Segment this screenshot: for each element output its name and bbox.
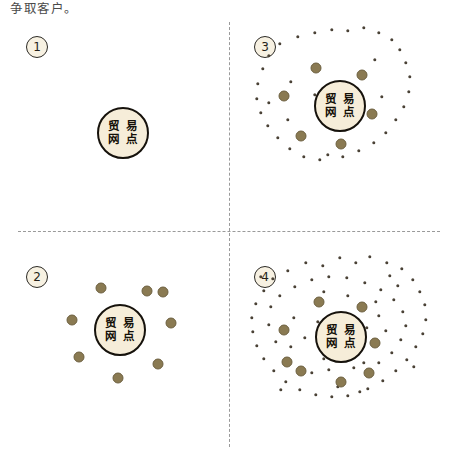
small-dot	[362, 361, 365, 364]
small-dot	[255, 344, 258, 347]
small-dot	[262, 357, 265, 360]
medium-dot	[314, 297, 325, 308]
small-dot	[327, 275, 330, 278]
small-dot	[377, 314, 380, 317]
small-dot	[384, 329, 387, 332]
small-dot	[352, 366, 355, 369]
small-dot	[381, 379, 384, 382]
small-dot	[269, 305, 272, 308]
small-dot	[330, 28, 333, 31]
diagram-canvas: 争取客户。 1 贸 易 网 点 2 贸 易 网 点 3 贸 易 网 点 4 贸 …	[0, 0, 456, 461]
small-dot	[411, 278, 414, 281]
small-dot	[384, 131, 387, 134]
panel-number-badge-4: 4	[254, 266, 276, 288]
small-dot	[421, 332, 424, 335]
small-dot	[267, 101, 270, 104]
small-dot	[346, 394, 349, 397]
medium-dot	[370, 338, 381, 349]
medium-dot	[282, 357, 293, 368]
small-dot	[326, 153, 329, 156]
panel-2: 2 贸 易 网 点	[0, 230, 228, 461]
small-dot	[354, 261, 357, 264]
small-dot	[366, 387, 369, 390]
small-dot	[412, 365, 415, 368]
small-dot	[374, 300, 377, 303]
panel-4: 4 贸 易 网 点	[228, 230, 456, 461]
medium-dot	[279, 91, 290, 102]
panel-3: 3 贸 易 网 点	[228, 0, 456, 231]
small-dot	[303, 336, 306, 339]
medium-dot	[336, 377, 347, 388]
small-dot	[398, 48, 401, 51]
small-dot	[250, 316, 253, 319]
medium-dot	[153, 359, 164, 370]
small-dot	[336, 385, 339, 388]
medium-dot	[96, 283, 107, 294]
small-dot	[322, 290, 325, 293]
trade-node-2: 贸 易 网 点	[94, 304, 146, 356]
panel-number-badge-2: 2	[26, 266, 48, 288]
small-dot	[256, 82, 259, 85]
medium-dot	[296, 131, 307, 142]
small-dot	[385, 261, 388, 264]
small-dot	[298, 388, 301, 391]
small-dot	[321, 264, 324, 267]
small-dot	[390, 351, 393, 354]
medium-dot	[113, 373, 124, 384]
small-dot	[310, 278, 313, 281]
small-dot	[363, 281, 366, 284]
small-dot	[379, 288, 382, 291]
small-dot	[310, 371, 313, 374]
small-dot	[396, 284, 399, 287]
small-dot	[424, 318, 427, 321]
small-dot	[286, 269, 289, 272]
small-dot	[377, 361, 380, 364]
node-label-line2: 网 点	[326, 337, 356, 350]
small-dot	[302, 155, 305, 158]
small-dot	[267, 323, 270, 326]
medium-dot	[279, 325, 290, 336]
small-dot	[251, 330, 254, 333]
small-dot	[284, 380, 287, 383]
small-dot	[377, 31, 380, 34]
small-dot	[404, 324, 407, 327]
small-dot	[314, 393, 317, 396]
small-dot	[266, 124, 269, 127]
small-dot	[402, 105, 405, 108]
small-dot	[274, 340, 277, 343]
medium-dot	[357, 70, 368, 81]
small-dot	[414, 345, 417, 348]
small-dot	[338, 256, 341, 259]
medium-dot	[166, 318, 177, 329]
small-dot	[405, 358, 408, 361]
small-dot	[390, 38, 393, 41]
trade-node-4: 贸 易 网 点	[315, 311, 367, 363]
panel-number-badge-1: 1	[26, 36, 48, 58]
small-dot	[288, 147, 291, 150]
small-dot	[346, 294, 349, 297]
small-dot	[255, 97, 258, 100]
small-dot	[357, 149, 360, 152]
small-dot	[380, 95, 383, 98]
node-label-line2: 网 点	[105, 330, 135, 343]
medium-dot	[367, 109, 378, 120]
small-dot	[418, 290, 421, 293]
small-dot	[345, 276, 348, 279]
medium-dot	[364, 368, 375, 379]
trade-node-3: 贸 易 网 点	[314, 80, 366, 132]
medium-dot	[336, 139, 347, 150]
small-dot	[401, 310, 404, 313]
small-dot	[408, 75, 411, 78]
node-label-line2: 网 点	[108, 133, 138, 146]
small-dot	[341, 155, 344, 158]
small-dot	[293, 285, 296, 288]
small-dot	[296, 35, 299, 38]
small-dot	[388, 274, 391, 277]
small-dot	[318, 158, 321, 161]
small-dot	[394, 118, 397, 121]
small-dot	[404, 61, 407, 64]
node-label-line2: 网 点	[325, 106, 355, 119]
panel-1: 1 贸 易 网 点	[0, 0, 228, 231]
small-dot	[261, 67, 264, 70]
small-dot	[279, 388, 282, 391]
